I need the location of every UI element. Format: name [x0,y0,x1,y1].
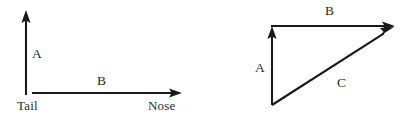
right-vector-c-label: C [337,76,346,90]
left-vector-b [32,88,182,97]
tail-endpoint-label: Tail [17,99,38,112]
left-vector-a-label: A [32,47,42,61]
right-vector-c [272,27,394,105]
right-panel-group [267,21,395,105]
right-vector-c-shaft [272,33,384,105]
left-vector-a [21,10,30,95]
right-vector-b [271,21,395,30]
right-vector-c-arrowhead [380,27,394,36]
vector-addition-figure: A B Tail Nose A B C [0,0,419,126]
right-vector-b-label: B [325,4,334,18]
right-vector-a [267,26,276,105]
figure-canvas [0,0,419,126]
left-vector-b-label: B [97,74,106,88]
right-vector-a-label: A [255,61,265,75]
nose-endpoint-label: Nose [148,99,176,112]
